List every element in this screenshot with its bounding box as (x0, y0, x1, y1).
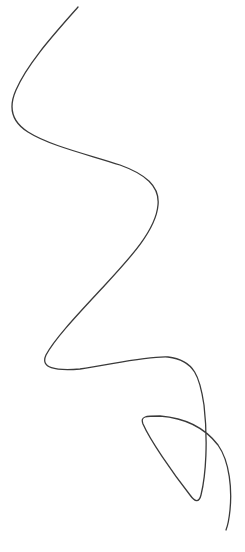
drawing-canvas (0, 0, 245, 552)
freehand-curve (12, 7, 231, 530)
